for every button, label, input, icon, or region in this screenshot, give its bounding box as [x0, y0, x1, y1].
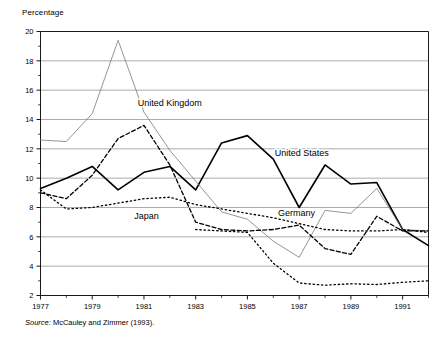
- grid-lines: [41, 61, 429, 266]
- x-axis: 19771979198119831985198719891991: [32, 296, 428, 312]
- series-line-united-states: [41, 136, 429, 246]
- y-tick-label: 14: [25, 115, 33, 124]
- x-tick-label: 1985: [239, 302, 256, 311]
- x-tick-label: 1991: [394, 302, 411, 311]
- x-tick-label: 1981: [136, 302, 153, 311]
- y-tick-label: 20: [25, 27, 33, 36]
- series-label-united-kingdom: United Kingdom: [138, 98, 202, 108]
- series-line-japan-lower: [196, 230, 429, 286]
- y-tick-label: 8: [29, 203, 33, 212]
- x-tick-label: 1979: [84, 302, 101, 311]
- source-label: Source:: [25, 318, 51, 327]
- y-tick-label: 6: [29, 233, 33, 242]
- y-tick-label: 10: [25, 174, 33, 183]
- x-tick-label: 1977: [32, 302, 49, 311]
- data-series-group: [41, 40, 429, 285]
- source-note: Source: McCauley and Zimmer (1993).: [25, 318, 154, 327]
- y-tick-label: 2: [29, 291, 33, 300]
- series-labels: United StatesUnited StatesUnited Kingdom…: [134, 98, 329, 221]
- series-label-japan: Japan: [134, 211, 159, 221]
- plot-frame: [41, 32, 429, 296]
- line-chart-plot: 2468101214161820197719791981198319851987…: [0, 0, 445, 339]
- series-line-germany: [41, 125, 429, 254]
- x-tick-label: 1989: [343, 302, 360, 311]
- y-axis: 2468101214161820: [25, 27, 40, 300]
- chart-figure: Percentage 24681012141618201977197919811…: [0, 0, 445, 339]
- y-tick-label: 12: [25, 145, 33, 154]
- x-tick-label: 1983: [187, 302, 204, 311]
- x-tick-label: 1987: [291, 302, 308, 311]
- y-tick-label: 18: [25, 57, 33, 66]
- series-label-united-states: United States: [275, 148, 330, 158]
- y-tick-label: 4: [29, 262, 33, 271]
- source-citation: McCauley and Zimmer (1993).: [51, 318, 154, 327]
- y-tick-label: 16: [25, 86, 33, 95]
- series-label-germany: Germany: [278, 208, 316, 218]
